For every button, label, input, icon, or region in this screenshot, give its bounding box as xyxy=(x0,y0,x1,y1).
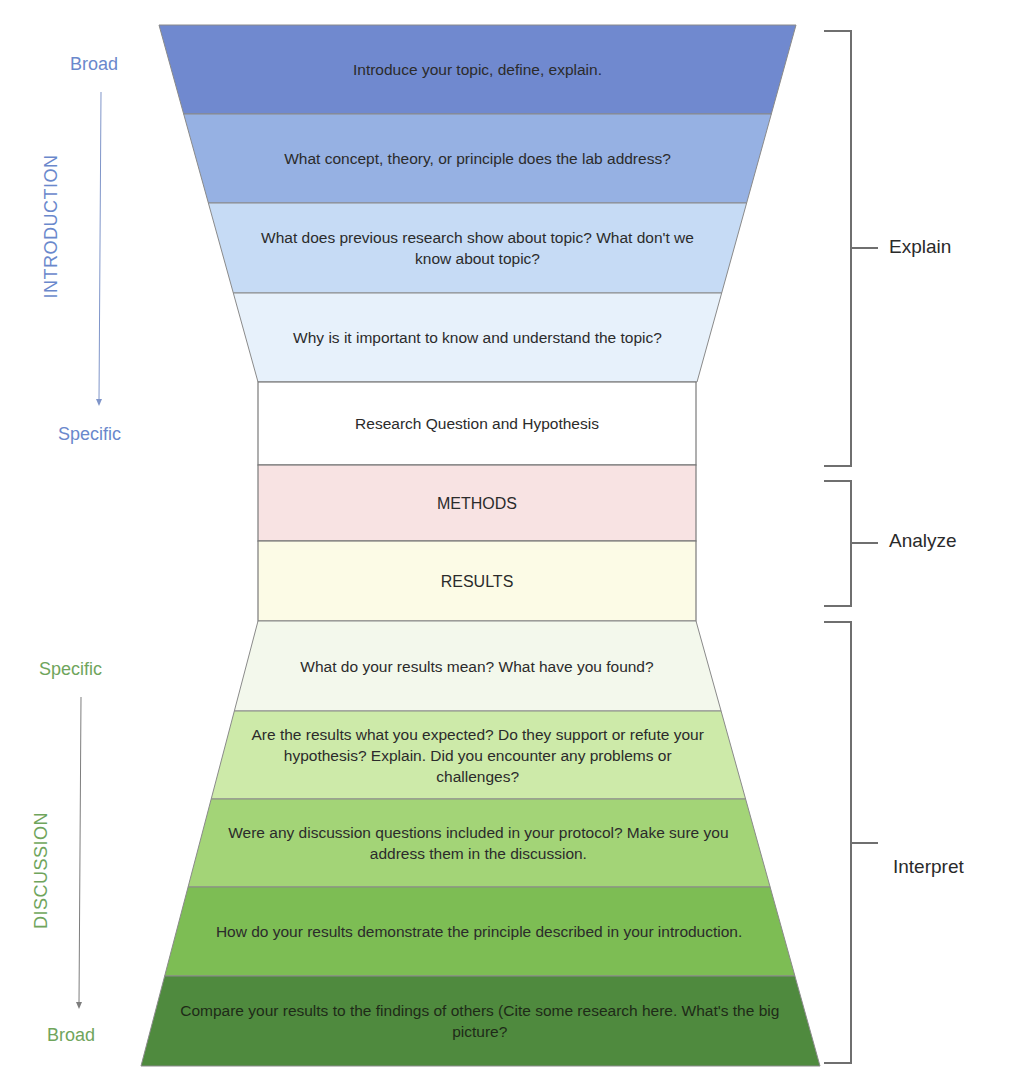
intro-band-3-text: What does previous research show about t… xyxy=(241,203,713,293)
discussion-specific-label: Specific xyxy=(39,659,102,680)
discussion-arrow-line xyxy=(79,697,81,1003)
interpret-bracket xyxy=(824,622,851,1063)
intro-band-2-text: What concept, theory, or principle does … xyxy=(216,114,738,203)
intro-band-4-text: Why is it important to know and understa… xyxy=(266,293,689,382)
writing-funnel-diagram: Introduce your topic, define, explain. W… xyxy=(0,0,1010,1086)
intro-specific-label: Specific xyxy=(58,424,121,445)
introduction-section-label: INTRODUCTION xyxy=(41,159,62,299)
intro-broad-label: Broad xyxy=(70,54,118,75)
discussion-band-2-text: Are the results what you expected? Do th… xyxy=(242,711,713,799)
methods-box-text: METHODS xyxy=(260,465,694,541)
intro-band-1-text: Introduce your topic, define, explain. xyxy=(192,25,764,114)
explain-bracket xyxy=(824,31,851,466)
bracket-label-explain: Explain xyxy=(889,236,951,258)
intro-arrow-line xyxy=(99,92,101,400)
discussion-band-4-text: How do your results demonstrate the prin… xyxy=(196,887,762,976)
intro-arrow-head-icon xyxy=(96,399,102,406)
discussion-band-3-text: Were any discussion questions included i… xyxy=(219,799,737,887)
bracket-label-analyze: Analyze xyxy=(889,530,957,552)
discussion-arrow-head-icon xyxy=(76,1002,82,1009)
discussion-section-label: DISCUSSION xyxy=(31,806,52,936)
discussion-band-5-text: Compare your results to the findings of … xyxy=(173,976,787,1066)
results-box-text: RESULTS xyxy=(260,541,694,621)
discussion-band-1-text: What do your results mean? What have you… xyxy=(266,621,688,711)
research-question-box-text: Research Question and Hypothesis xyxy=(260,382,694,465)
bracket-label-interpret: Interpret xyxy=(893,856,964,878)
analyze-bracket xyxy=(824,481,851,606)
discussion-broad-label: Broad xyxy=(47,1025,95,1046)
